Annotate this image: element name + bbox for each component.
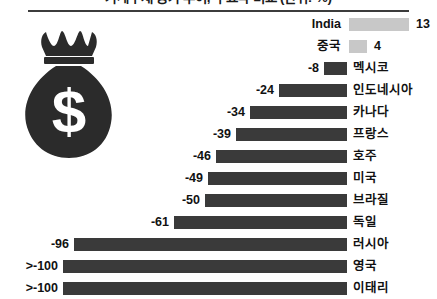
bar-value-label: -96 — [51, 236, 69, 252]
chart-row: -39프랑스 — [0, 124, 437, 146]
bar-neg — [205, 194, 347, 207]
chart-row: >-100영국 — [0, 256, 437, 278]
chart-row: >-100이태리 — [0, 278, 437, 299]
bar-value-label: 4 — [374, 38, 381, 54]
bar-neg — [279, 84, 347, 97]
chart-row: -34카나다 — [0, 102, 437, 124]
bar-neg — [74, 238, 347, 251]
chart-row: -8멕시코 — [0, 58, 437, 80]
bar-neg — [324, 62, 347, 75]
bar-value-label: -46 — [193, 148, 211, 164]
bar-value-label: -61 — [151, 214, 169, 230]
category-label: 인도네시아 — [353, 82, 413, 98]
category-label: 이태리 — [353, 280, 389, 296]
bar-value-label: >-100 — [26, 258, 58, 274]
bar-neg — [250, 106, 347, 119]
bar-value-label: 13 — [416, 16, 430, 32]
chart-row: -50브라질 — [0, 190, 437, 212]
bar-neg — [208, 172, 347, 185]
bar-value-label: -8 — [308, 60, 319, 76]
bar-value-label: -39 — [213, 126, 231, 142]
bar-value-label: >-100 — [26, 280, 58, 296]
bar-neg — [63, 282, 347, 295]
bar-value-label: -49 — [185, 170, 203, 186]
category-label: 미국 — [353, 170, 377, 186]
category-label: 독일 — [353, 214, 377, 230]
category-label: 호주 — [353, 148, 377, 164]
title-divider — [28, 10, 409, 12]
bar-value-label: -24 — [256, 82, 274, 98]
category-label: 프랑스 — [353, 126, 389, 142]
category-label: 러시아 — [353, 236, 389, 252]
chart-row: 4중국 — [0, 36, 437, 58]
chart-row: -49미국 — [0, 168, 437, 190]
category-label: 영국 — [353, 258, 377, 274]
page-title: 가계부채 증가 추이, 주요국 비교 (단위: %) — [0, 0, 437, 5]
category-label: 멕시코 — [353, 60, 389, 76]
category-label: 카나다 — [353, 104, 389, 120]
chart-row: -24인도네시아 — [0, 80, 437, 102]
bar-chart-plot: 13India4중국-8멕시코-24인도네시아-34카나다-39프랑스-46호주… — [0, 14, 437, 289]
category-label: 중국 — [317, 38, 341, 54]
bar-pos — [349, 18, 409, 31]
bar-neg — [216, 150, 347, 163]
bar-pos — [349, 40, 367, 53]
category-label: 브라질 — [353, 192, 389, 208]
bar-value-label: -50 — [182, 192, 200, 208]
chart-row: -61독일 — [0, 212, 437, 234]
bar-neg — [236, 128, 347, 141]
chart-row: -96러시아 — [0, 234, 437, 256]
bar-neg — [63, 260, 347, 273]
chart-row: -46호주 — [0, 146, 437, 168]
bar-neg — [174, 216, 347, 229]
bar-value-label: -34 — [227, 104, 245, 120]
category-label: India — [312, 16, 341, 32]
chart-row: 13India — [0, 14, 437, 36]
